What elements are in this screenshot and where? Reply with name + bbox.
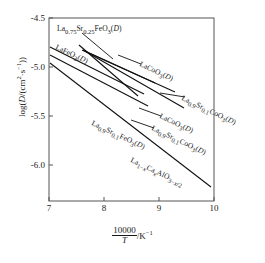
leader-lacoo3-lower: [139, 108, 161, 116]
plot-frame: [49, 18, 214, 201]
leader-la09sr01coo3-l: [131, 120, 154, 128]
chart-figure: log(D/(cm2·s−1)) -4.5 -5.0 -5.5 -6.0 7 8…: [0, 0, 265, 263]
data-lines: [50, 45, 211, 187]
axis-ticks: [49, 18, 214, 201]
leader-lacoo3-upper: [118, 55, 141, 64]
plot-canvas: [0, 0, 265, 263]
annotation-la075sr025feo3: La0.75Sr0.25FeO3(D): [57, 24, 121, 33]
